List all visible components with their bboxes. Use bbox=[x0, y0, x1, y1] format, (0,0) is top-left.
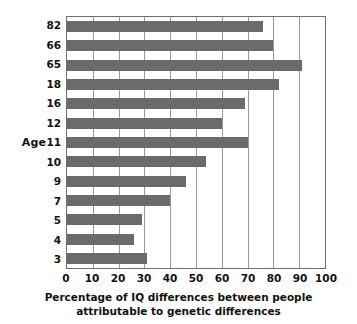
x-axis-tick-label: 10 bbox=[85, 272, 100, 284]
bar-row bbox=[67, 172, 325, 191]
x-axis-tick-label: 50 bbox=[189, 272, 204, 284]
bar-row bbox=[67, 56, 325, 75]
y-axis-tick-label: 18 bbox=[40, 74, 62, 93]
bar-chart: Age 826665181612111097543 01020304050607… bbox=[0, 0, 357, 324]
y-axis-tick-label: 5 bbox=[40, 211, 62, 230]
bar-row bbox=[67, 210, 325, 229]
bar-row bbox=[67, 152, 325, 171]
x-axis-title-line: Percentage of IQ differences between peo… bbox=[0, 291, 357, 305]
bar-row bbox=[67, 17, 325, 36]
y-axis-tick-label: 66 bbox=[40, 35, 62, 54]
y-axis-tick-label: 65 bbox=[40, 55, 62, 74]
bar bbox=[67, 156, 206, 167]
bar bbox=[67, 234, 134, 245]
y-axis-tick-label: 7 bbox=[40, 191, 62, 210]
bar bbox=[67, 214, 142, 225]
bar-row bbox=[67, 114, 325, 133]
x-axis-tick-label: 40 bbox=[163, 272, 178, 284]
x-axis-tick-label: 90 bbox=[293, 272, 308, 284]
bar-row bbox=[67, 75, 325, 94]
y-axis-tick-label: 3 bbox=[40, 250, 62, 269]
x-axis-tick-label: 70 bbox=[241, 272, 256, 284]
x-axis-tick-label: 60 bbox=[215, 272, 230, 284]
bar-row bbox=[67, 133, 325, 152]
bar bbox=[67, 253, 147, 264]
bar bbox=[67, 21, 263, 32]
bar-row bbox=[67, 191, 325, 210]
y-axis-tick-label: 11 bbox=[40, 133, 62, 152]
x-axis-tick-label: 100 bbox=[315, 272, 337, 284]
bar-row bbox=[67, 36, 325, 55]
bar bbox=[67, 98, 245, 109]
y-axis-tick-label: 10 bbox=[40, 152, 62, 171]
x-axis-tick-label: 20 bbox=[111, 272, 126, 284]
plot-area bbox=[66, 16, 326, 269]
bar bbox=[67, 195, 170, 206]
y-axis-tick-labels: 826665181612111097543 bbox=[40, 16, 62, 269]
bar bbox=[67, 137, 248, 148]
bar bbox=[67, 79, 279, 90]
bar-row bbox=[67, 249, 325, 268]
bar bbox=[67, 40, 273, 51]
bar bbox=[67, 118, 222, 129]
y-axis-tick-label: 16 bbox=[40, 94, 62, 113]
bar bbox=[67, 60, 302, 71]
bar-row bbox=[67, 94, 325, 113]
y-axis-tick-label: 9 bbox=[40, 172, 62, 191]
bar-series bbox=[67, 17, 325, 268]
bar-row bbox=[67, 229, 325, 248]
y-axis-tick-label: 4 bbox=[40, 230, 62, 249]
y-axis-tick-label: 82 bbox=[40, 16, 62, 35]
x-axis-title-line: attributable to genetic differences bbox=[0, 305, 357, 319]
x-axis-tick-label: 0 bbox=[62, 272, 69, 284]
x-axis-title: Percentage of IQ differences between peo… bbox=[0, 291, 357, 318]
bar bbox=[67, 176, 186, 187]
x-axis-tick-label: 80 bbox=[267, 272, 282, 284]
y-axis-tick-label: 12 bbox=[40, 113, 62, 132]
x-axis-tick-label: 30 bbox=[137, 272, 152, 284]
x-axis-tick-labels: 0102030405060708090100 bbox=[66, 272, 326, 286]
